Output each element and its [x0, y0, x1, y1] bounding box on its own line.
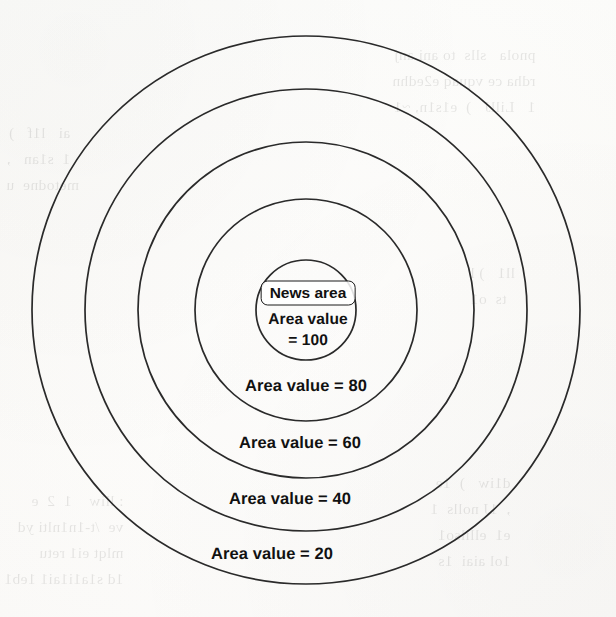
figure-page: pnola slls to ani anj rdha ce vquaq e2ed…	[0, 0, 616, 617]
ring-label-40: Area value = 40	[229, 490, 351, 509]
ring-circle-40	[85, 89, 527, 531]
ring-label-80: Area value = 80	[245, 377, 367, 396]
news-area-box: News area	[261, 281, 356, 306]
center-area-value-text: Area value	[268, 311, 347, 329]
ring-circle-60	[138, 142, 474, 478]
concentric-circles-svg	[0, 0, 616, 617]
center-area-value-number: = 100	[288, 332, 328, 350]
ring-label-60: Area value = 60	[239, 434, 361, 453]
ring-label-20: Area value = 20	[211, 545, 333, 564]
